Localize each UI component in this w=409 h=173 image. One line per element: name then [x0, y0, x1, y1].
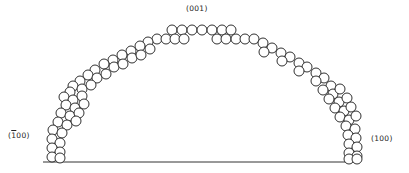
atom-circle	[258, 38, 268, 48]
atom-circle	[161, 34, 171, 44]
atom-circle	[170, 34, 180, 44]
atom-circle	[207, 25, 217, 35]
label-001-facet: (001)	[186, 4, 208, 13]
atom-circle	[187, 25, 197, 35]
atom-circle	[352, 154, 362, 164]
atom-circle	[335, 84, 345, 94]
atom-circle	[71, 116, 81, 126]
atom-circle	[177, 25, 187, 35]
atom-circle	[249, 34, 259, 44]
atom-circle	[212, 34, 222, 44]
atom-circle	[48, 125, 58, 135]
atom-circle	[346, 102, 356, 112]
atom-circle	[197, 25, 207, 35]
label-bar100-facet: (100)	[8, 131, 30, 140]
atom-circle	[101, 69, 111, 79]
atom-circle	[167, 25, 177, 35]
atom-circle	[240, 34, 250, 44]
atom-circle	[135, 41, 145, 51]
atom-circle	[231, 34, 241, 44]
atom-circle	[109, 62, 119, 72]
atom-circle	[117, 50, 127, 60]
atom-circle	[217, 25, 227, 35]
atom-circle	[311, 76, 321, 86]
atom-circle	[55, 153, 65, 163]
atom-circle	[152, 34, 162, 44]
atom-circle	[342, 93, 352, 103]
atom-circle	[277, 56, 287, 66]
atom-circle	[57, 128, 67, 138]
label-100-text: (100)	[371, 134, 393, 143]
atom-circle	[351, 111, 361, 121]
atom-circle	[318, 85, 328, 95]
atom-circle	[179, 34, 189, 44]
atom-circle	[136, 50, 146, 60]
atom-circle	[79, 99, 89, 109]
atom-circle	[259, 47, 269, 57]
atom-circle	[341, 121, 351, 131]
atom-circle	[330, 103, 340, 113]
atom-layer	[47, 25, 362, 164]
label-001-text: (001)	[186, 4, 208, 13]
atom-circle	[226, 25, 236, 35]
atom-circle	[99, 59, 109, 69]
atom-circle	[56, 108, 66, 118]
atom-circle	[324, 94, 334, 104]
atom-circle	[221, 34, 231, 44]
atom-circle	[127, 53, 137, 63]
atom-circle	[118, 59, 128, 69]
atom-circle	[294, 66, 304, 76]
atom-circle	[145, 44, 155, 54]
label-rest: 00)	[16, 131, 29, 140]
atom-circle	[86, 80, 96, 90]
crystal-diagram	[0, 0, 409, 173]
label-100-facet: (100)	[371, 134, 393, 143]
atom-circle	[335, 112, 345, 122]
